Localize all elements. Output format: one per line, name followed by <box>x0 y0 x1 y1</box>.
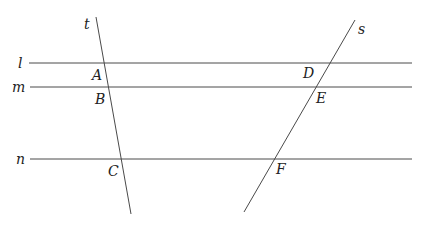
point-label-F: F <box>275 161 287 177</box>
point-label-E: E <box>315 90 326 106</box>
point-label-D: D <box>302 65 314 81</box>
point-label-C: C <box>108 163 119 179</box>
line-label-s: s <box>358 21 365 37</box>
line-label-t: t <box>84 16 90 32</box>
point-label-B: B <box>94 91 105 107</box>
line-label-m: m <box>12 79 25 95</box>
point-label-A: A <box>90 67 102 83</box>
transversal-s <box>244 20 355 212</box>
line-label-n: n <box>16 151 25 167</box>
parallel-lines-diagram: lmntsABCDEF <box>0 0 427 233</box>
transversal-t <box>96 17 131 214</box>
line-label-l: l <box>18 55 22 71</box>
